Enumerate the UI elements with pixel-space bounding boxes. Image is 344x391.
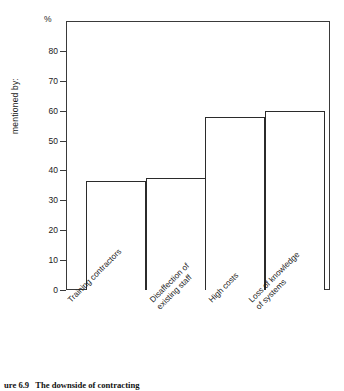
figure-caption: ure 6.9The downside of contracting xyxy=(4,380,139,390)
figure-container: mentioned by: % 80706050403020100 Traini… xyxy=(0,0,344,391)
bar xyxy=(205,117,265,290)
bar-series xyxy=(0,0,344,391)
caption-number: ure 6.9 xyxy=(4,380,29,390)
caption-text: The downside of contracting xyxy=(35,380,139,390)
